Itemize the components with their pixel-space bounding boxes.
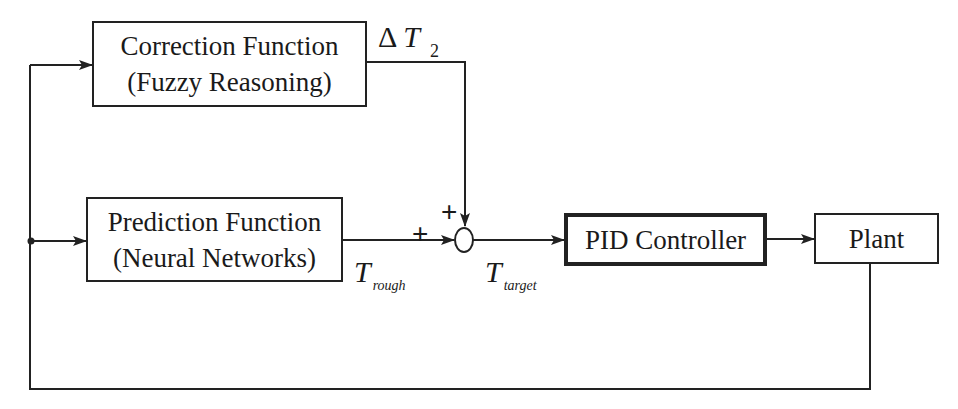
pid-controller-block: PID Controller xyxy=(564,213,767,266)
t-rough-label: Trough xyxy=(354,255,406,294)
prediction-function-block: Prediction Function (Neural Networks) xyxy=(86,197,343,282)
delta-t2-label: ΔT2 xyxy=(378,20,439,62)
plus-sign-top: + xyxy=(441,198,457,226)
plant-label: Plant xyxy=(849,221,905,257)
summing-junction xyxy=(455,228,473,252)
correction-function-subtitle: (Fuzzy Reasoning) xyxy=(127,64,332,100)
plant-block: Plant xyxy=(814,213,939,264)
prediction-function-title: Prediction Function xyxy=(108,204,322,240)
correction-function-title: Correction Function xyxy=(120,28,338,64)
pid-controller-label: PID Controller xyxy=(585,222,746,258)
plus-sign-left: + xyxy=(412,220,428,248)
t-target-label: Ttarget xyxy=(485,255,537,294)
branch-point xyxy=(28,238,35,245)
correction-function-block: Correction Function (Fuzzy Reasoning) xyxy=(92,21,367,107)
prediction-function-subtitle: (Neural Networks) xyxy=(113,240,316,276)
